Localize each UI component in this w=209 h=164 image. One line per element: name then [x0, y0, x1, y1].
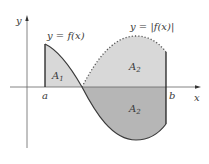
x-axis-label: x: [194, 92, 200, 103]
region-a2-reflected: [82, 36, 166, 87]
x-axis-arrow-icon: [195, 85, 201, 88]
a-label: a: [42, 90, 48, 101]
y-axis-arrow-icon: [25, 15, 28, 21]
area-diagram: y x a b y = f(x) y = |f(x)| A1 A2 A2: [0, 0, 209, 164]
region-a2-below: [82, 87, 166, 140]
y-axis-label: y: [15, 15, 22, 26]
curve-f-label: y = f(x): [46, 30, 85, 41]
b-label: b: [169, 90, 175, 101]
curve-abs-label: y = |f(x)|: [129, 21, 174, 33]
